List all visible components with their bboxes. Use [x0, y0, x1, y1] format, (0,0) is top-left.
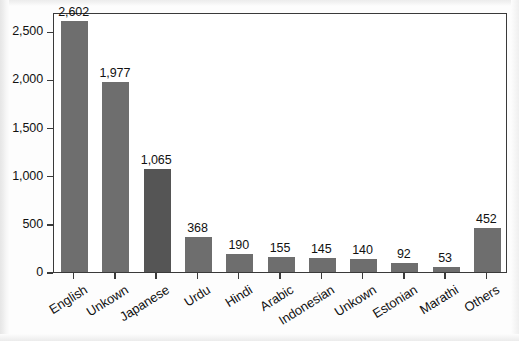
y-tick-label-4: 2,000 — [12, 72, 43, 86]
bar-chart: 05001,0001,5002,0002,500 EnglishUnkownJa… — [0, 0, 519, 341]
bar-value-label-3: 368 — [167, 221, 227, 235]
bar-hindi-4 — [226, 254, 253, 272]
y-tick-label-2: 1,000 — [12, 169, 43, 183]
plot-area — [54, 14, 506, 272]
x-tick-mark-10 — [486, 273, 488, 279]
x-tick-mark-6 — [321, 273, 323, 279]
x-tick-mark-0 — [73, 273, 75, 279]
bar-value-label-9: 53 — [415, 251, 475, 265]
bar-marathi-9 — [433, 267, 460, 272]
bar-indonesian-6 — [309, 258, 336, 272]
x-tick-mark-3 — [197, 273, 199, 279]
bar-unkown-1 — [102, 82, 129, 272]
y-tick-label-5: 2,500 — [12, 24, 43, 38]
x-tick-mark-8 — [403, 273, 405, 279]
x-tick-mark-2 — [155, 273, 157, 279]
x-tick-mark-1 — [114, 273, 116, 279]
x-tick-mark-4 — [238, 273, 240, 279]
bar-others-10 — [474, 228, 501, 272]
x-tick-mark-7 — [362, 273, 364, 279]
y-tick-label-3: 1,500 — [12, 121, 43, 135]
y-tick-label-1: 500 — [22, 217, 43, 231]
plot-frame — [53, 13, 507, 273]
bar-value-label-2: 1,065 — [126, 153, 186, 167]
bar-arabic-5 — [268, 257, 295, 272]
y-tick-label-0: 0 — [36, 265, 43, 279]
bar-value-label-0: 2,602 — [44, 5, 104, 19]
x-tick-mark-5 — [279, 273, 281, 279]
bar-value-label-10: 452 — [456, 212, 516, 226]
x-tick-mark-9 — [444, 273, 446, 279]
bar-value-label-1: 1,977 — [85, 66, 145, 80]
bar-english-0 — [61, 21, 88, 272]
